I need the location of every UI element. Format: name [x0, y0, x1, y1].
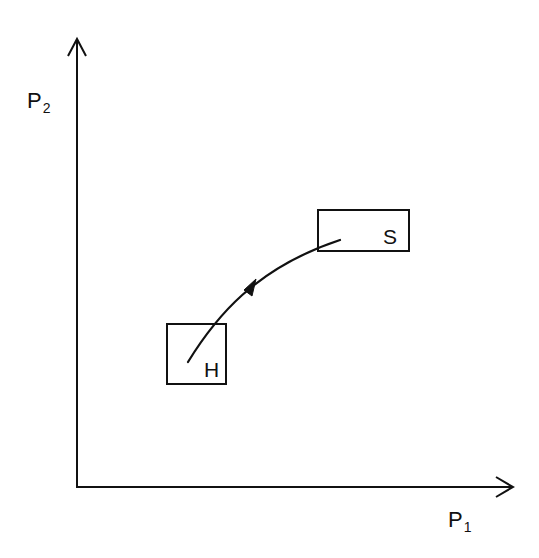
y-axis-label-main: P — [27, 88, 42, 113]
diagram-canvas — [0, 0, 539, 558]
y-axis-label-subscript: 2 — [43, 100, 51, 116]
x-axis-label: P1 — [448, 509, 471, 534]
x-axis-label-main: P — [448, 507, 463, 532]
transition-curve — [188, 240, 340, 362]
transition-arrowhead-icon — [244, 279, 256, 296]
node-s-label: S — [383, 226, 397, 247]
node-h-label: H — [204, 359, 219, 380]
x-axis-label-subscript: 1 — [464, 519, 472, 535]
y-axis-label: P2 — [27, 90, 50, 115]
